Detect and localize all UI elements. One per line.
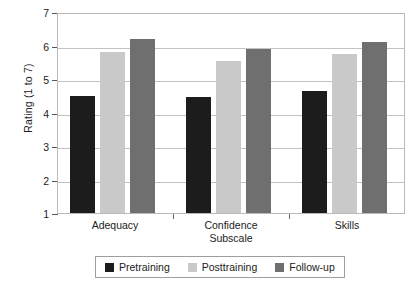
y-axis-tick-label: 2 [9,175,49,187]
legend-entry[interactable]: Follow-up [275,261,335,273]
bar[interactable] [186,97,211,213]
bar[interactable] [70,96,95,213]
bar-group [174,14,290,213]
y-axis-tick-mark [52,214,58,215]
y-axis-tick-label: 7 [9,7,49,19]
chart-legend: PretrainingPosttrainingFollow-up [95,256,345,278]
y-axis-tick-label: 5 [9,74,49,86]
legend-entry[interactable]: Posttraining [188,261,257,273]
bar-group [290,14,406,213]
legend-swatch-icon [275,263,284,272]
bar[interactable] [130,39,155,213]
y-axis-tick-label: 4 [9,108,49,120]
bar[interactable] [332,54,357,213]
legend-entry[interactable]: Pretraining [105,261,170,273]
bar[interactable] [246,49,271,213]
x-axis-category-label: Adequacy [57,219,173,232]
x-axis-category-label: Skills [289,219,405,232]
x-axis-category-label: Confidence Subscale [173,219,289,244]
bar-group [58,14,174,213]
legend-label: Follow-up [289,261,335,273]
legend-swatch-icon [105,263,114,272]
y-axis-tick-label: 6 [9,41,49,53]
bar[interactable] [100,52,125,213]
y-axis-tick-label: 1 [9,208,49,220]
legend-label: Pretraining [119,261,170,273]
legend-label: Posttraining [202,261,257,273]
plot-area [57,13,405,214]
legend-swatch-icon [188,263,197,272]
bar-chart-figure: Rating (1 to 7) 1234567 AdequacyConfiden… [0,0,414,287]
y-axis-tick-label: 3 [9,141,49,153]
bar[interactable] [216,61,241,213]
bar[interactable] [302,91,327,213]
bar[interactable] [362,42,387,213]
